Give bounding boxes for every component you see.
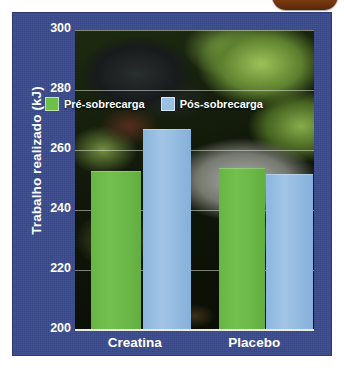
y-tick-label: 300 bbox=[31, 22, 71, 35]
chart-legend: Pré-sobrecarga Pós-sobrecarga bbox=[45, 97, 263, 111]
y-tick-label: 240 bbox=[31, 202, 71, 215]
x-axis-line bbox=[75, 329, 314, 331]
x-category-label: Placebo bbox=[195, 335, 315, 350]
plot-area bbox=[75, 30, 314, 331]
bar-creatina-pos bbox=[143, 129, 191, 331]
legend-entry-pre: Pré-sobrecarga bbox=[45, 97, 145, 111]
y-tick-label: 200 bbox=[31, 322, 71, 335]
y-axis-tick-labels: 300 280 260 240 220 200 bbox=[27, 13, 71, 355]
legend-swatch-green bbox=[45, 97, 59, 111]
legend-label-pos: Pós-sobrecarga bbox=[180, 98, 263, 110]
bar-placebo-pre bbox=[219, 168, 265, 331]
gridline-260 bbox=[75, 150, 314, 151]
y-tick-label: 220 bbox=[31, 262, 71, 275]
bar-creatina-pre bbox=[91, 171, 141, 331]
gridline-280 bbox=[75, 90, 314, 91]
x-category-label: Creatina bbox=[75, 335, 195, 350]
x-axis-category-labels: Creatina Placebo bbox=[75, 335, 314, 350]
bar-placebo-pos bbox=[266, 174, 313, 331]
y-tick-label: 260 bbox=[31, 142, 71, 155]
legend-entry-pos: Pós-sobrecarga bbox=[161, 97, 263, 111]
chart-panel: Trabalho realizado (kJ) 300 280 260 240 … bbox=[13, 13, 331, 355]
legend-swatch-blue bbox=[161, 97, 175, 111]
legend-label-pre: Pré-sobrecarga bbox=[64, 98, 145, 110]
gridline-300 bbox=[75, 30, 314, 31]
y-tick-label: 280 bbox=[31, 82, 71, 95]
corner-tab-decoration bbox=[272, 0, 338, 10]
